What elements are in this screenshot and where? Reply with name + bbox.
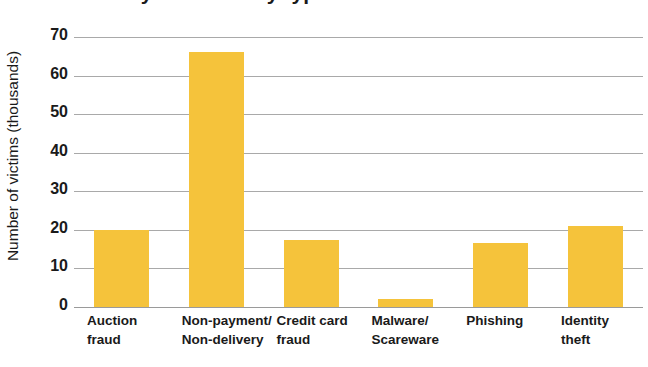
- bar: [284, 240, 339, 308]
- plot-area: [74, 37, 643, 307]
- y-axis-tick-labels: 706050403020100: [32, 37, 68, 307]
- y-axis-tick-label: 40: [32, 142, 68, 160]
- y-axis-title: Number of victims (thousands): [0, 0, 26, 312]
- x-axis-tick-labels: Auction fraudNon-payment/ Non-deliveryCr…: [74, 311, 643, 367]
- bar: [568, 226, 623, 307]
- bar: [189, 52, 244, 307]
- x-axis-tick-label: Identity theft: [561, 311, 648, 349]
- bar: [94, 230, 149, 307]
- bar-chart: Victims of cyber crime by type of crime …: [0, 0, 648, 367]
- x-axis-tick-label: Auction fraud: [87, 311, 196, 349]
- x-axis-tick-label: Credit card fraud: [277, 311, 386, 349]
- chart-title: Victims of cyber crime by type of crime: [22, 0, 417, 5]
- x-axis-tick-label: Phishing: [466, 311, 575, 330]
- y-axis-tick-label: 50: [32, 103, 68, 121]
- y-axis-tick-label: 60: [32, 64, 68, 82]
- y-axis-tick-label: 20: [32, 219, 68, 237]
- x-axis-tick-label: Malware/ Scareware: [371, 311, 480, 349]
- y-axis-tick-label: 10: [32, 257, 68, 275]
- y-axis-tick-label: 30: [32, 180, 68, 198]
- y-axis-tick-label: 0: [32, 296, 68, 314]
- bars-group: [74, 37, 643, 307]
- bar: [473, 243, 528, 307]
- y-axis-tick-label: 70: [32, 26, 68, 44]
- gridline: [74, 307, 643, 308]
- bar: [378, 299, 433, 307]
- y-axis-title-label: Number of victims (thousands): [4, 51, 22, 261]
- chart-title-clipped: Victims of cyber crime by type of crime: [0, 0, 648, 11]
- x-axis-tick-label: Non-payment/ Non-delivery: [182, 311, 291, 349]
